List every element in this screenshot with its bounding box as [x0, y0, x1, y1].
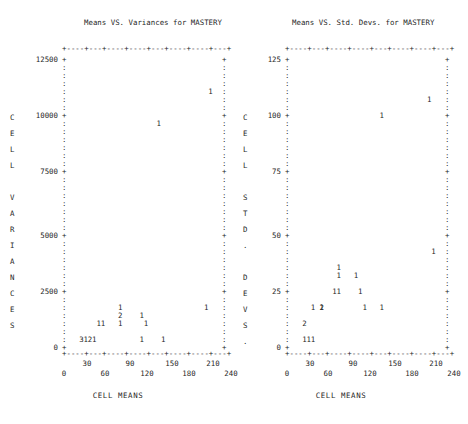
y-axis-title-char: . — [243, 242, 247, 250]
data-point-variances-14: 1 — [139, 336, 143, 344]
x-tick-label-lower-variances-1: 60 — [96, 369, 114, 378]
y-axis-title-char: E — [10, 130, 14, 138]
plot-canvas: Means VS. Variances for MASTERY+----+---… — [0, 0, 468, 424]
x-tick-label-upper-variances-3: 210 — [204, 359, 222, 368]
x-tick-label-upper-stddevs-0: 30 — [301, 359, 319, 368]
x-tick-label-lower-stddevs-4: 240 — [445, 369, 463, 378]
x-tick-label-upper-stddevs-2: 150 — [386, 359, 404, 368]
data-point-variances-0: 1 — [208, 88, 212, 96]
x-tick-label-lower-variances-0: 0 — [55, 369, 73, 378]
x-axis-rule-top-stddevs: +----+---+----+----+---+----+----+---+ — [285, 45, 454, 53]
data-point-stddevs-4: 1 — [337, 272, 341, 280]
y-axis-title-char: L — [243, 146, 247, 154]
y-axis-border-right-variances: + — [222, 344, 226, 352]
data-point-stddevs-12: 1 — [362, 304, 366, 312]
y-axis-title-char: C — [10, 114, 14, 122]
data-point-stddevs-2: 1 — [431, 248, 435, 256]
x-tick-label-upper-stddevs-3: 210 — [427, 359, 445, 368]
data-point-stddevs-0: 1 — [427, 96, 431, 104]
data-point-stddevs-11: 1 — [319, 304, 323, 312]
x-axis-rule-bottom-variances: +----+---+----+----+---+----+----+---+ — [62, 350, 231, 358]
x-tick-label-lower-variances-4: 240 — [222, 369, 240, 378]
y-tick-label-variances-2: 7500 — [18, 168, 58, 176]
y-axis-title-char: L — [10, 146, 14, 154]
x-tick-label-lower-stddevs-2: 120 — [361, 369, 379, 378]
y-tick-label-stddevs-0: 125 — [241, 56, 281, 64]
data-point-stddevs-5: 1 — [354, 272, 358, 280]
y-axis-title-char: S — [10, 322, 14, 330]
y-axis-title-char: E — [243, 290, 247, 298]
panel-title-variances: Means VS. Variances for MASTERY — [84, 18, 222, 27]
y-tick-label-variances-4: 2500 — [18, 288, 58, 296]
y-axis-title-char: C — [243, 114, 247, 122]
x-tick-label-upper-stddevs-1: 90 — [344, 359, 362, 368]
data-point-stddevs-17: 1 — [311, 336, 315, 344]
y-axis-title-char: S — [243, 194, 247, 202]
data-point-variances-13: 1 — [92, 336, 96, 344]
data-point-stddevs-14: 2 — [302, 320, 306, 328]
data-point-stddevs-8: 1 — [358, 288, 362, 296]
x-tick-label-lower-variances-3: 180 — [180, 369, 198, 378]
x-axis-title-stddevs: CELL MEANS — [311, 391, 371, 400]
y-axis-title-char: I — [10, 242, 14, 250]
y-axis-border-left-stddevs: + — [285, 344, 289, 352]
data-point-variances-15: 1 — [161, 336, 165, 344]
data-point-stddevs-9: 1 — [311, 304, 315, 312]
x-axis-rule-top-variances: +----+---+----+----+---+----+----+---+ — [62, 45, 231, 53]
y-axis-title-char: R — [10, 226, 14, 234]
panel-title-stddevs: Means VS. Std. Devs. for MASTERY — [292, 18, 434, 27]
y-axis-title-char: A — [10, 210, 14, 218]
y-tick-label-variances-1: 10000 — [18, 112, 58, 120]
y-tick-label-variances-5: 0 — [18, 344, 58, 352]
x-axis-title-variances: CELL MEANS — [88, 391, 148, 400]
x-tick-label-upper-variances-0: 30 — [78, 359, 96, 368]
x-tick-label-upper-variances-2: 150 — [163, 359, 181, 368]
data-point-variances-9: 1 — [144, 320, 148, 328]
y-axis-border-right-stddevs: + — [445, 344, 449, 352]
y-axis-title-char: E — [10, 306, 14, 314]
data-point-variances-1: 1 — [157, 120, 161, 128]
y-axis-title-char: N — [10, 274, 14, 282]
data-point-stddevs-7: 1 — [337, 288, 341, 296]
y-axis-title-char: . — [243, 338, 247, 346]
y-axis-title-char: S — [243, 322, 247, 330]
x-tick-label-lower-stddevs-0: 0 — [278, 369, 296, 378]
y-axis-title-char: V — [243, 306, 247, 314]
y-axis-title-char: D — [243, 274, 247, 282]
x-tick-label-lower-variances-2: 120 — [138, 369, 156, 378]
x-tick-label-lower-stddevs-3: 180 — [403, 369, 421, 378]
data-point-variances-7: 1 — [101, 320, 105, 328]
y-axis-title-char: L — [10, 162, 14, 170]
y-axis-border-left-variances: + — [62, 344, 66, 352]
y-axis-title-char: D — [243, 226, 247, 234]
data-point-stddevs-13: 1 — [380, 304, 384, 312]
x-tick-label-upper-variances-1: 90 — [121, 359, 139, 368]
x-axis-rule-bottom-stddevs: +----+---+----+----+---+----+----+---+ — [285, 350, 454, 358]
data-point-stddevs-1: 1 — [380, 112, 384, 120]
y-axis-title-char: T — [243, 210, 247, 218]
y-tick-label-variances-3: 5000 — [18, 232, 58, 240]
y-axis-title-char: E — [243, 130, 247, 138]
y-axis-title-char: A — [10, 258, 14, 266]
x-tick-label-lower-stddevs-1: 60 — [319, 369, 337, 378]
data-point-variances-3: 1 — [204, 304, 208, 312]
y-axis-title-char: L — [243, 162, 247, 170]
y-axis-title-char: V — [10, 194, 14, 202]
y-tick-label-variances-0: 12500 — [18, 56, 58, 64]
y-axis-title-char: C — [10, 290, 14, 298]
data-point-variances-8: 1 — [118, 320, 122, 328]
